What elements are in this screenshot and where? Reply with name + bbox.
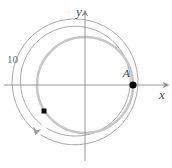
markers-group	[42, 81, 137, 113]
circular-orbit-diagram	[0, 0, 172, 168]
point-square-marker	[42, 109, 47, 114]
orbit-circles	[12, 19, 138, 145]
axes-group	[4, 10, 169, 161]
y-axis-label: y	[76, 5, 82, 18]
radius-measure-label: 10	[7, 54, 18, 65]
point-A-label: A	[123, 68, 130, 79]
rotation-arrow	[33, 127, 40, 134]
figure-canvas: y x A 10	[0, 0, 172, 168]
point-A-marker	[129, 81, 136, 88]
x-axis-label: x	[159, 88, 165, 101]
arrow-clockwise-icon	[33, 127, 40, 134]
